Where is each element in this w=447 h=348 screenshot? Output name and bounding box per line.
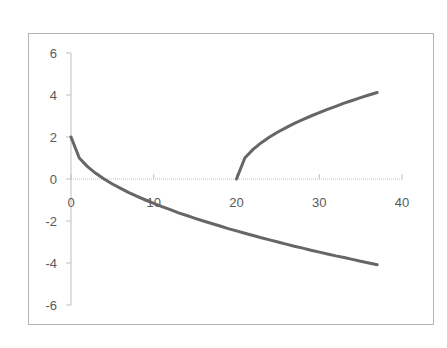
series-line-1 (71, 137, 377, 265)
y-tick-label: -2 (45, 214, 57, 229)
x-tick-label: 0 (67, 195, 74, 210)
x-tick-label: 30 (312, 195, 326, 210)
x-tick-label: 20 (229, 195, 243, 210)
series-line-2 (237, 93, 378, 180)
y-tick-label: 2 (50, 130, 57, 145)
y-tick-label: 0 (50, 172, 57, 187)
y-tick-label: -6 (45, 298, 57, 313)
x-tick-label: 40 (395, 195, 409, 210)
y-axis: 6420-2-4-6 (45, 46, 71, 313)
y-tick-label: -4 (45, 256, 57, 271)
y-tick-label: 4 (50, 88, 57, 103)
line-chart: 6420-2-4-6 010203040 (0, 0, 447, 348)
x-axis: 010203040 (67, 174, 409, 210)
y-tick-label: 6 (50, 46, 57, 61)
